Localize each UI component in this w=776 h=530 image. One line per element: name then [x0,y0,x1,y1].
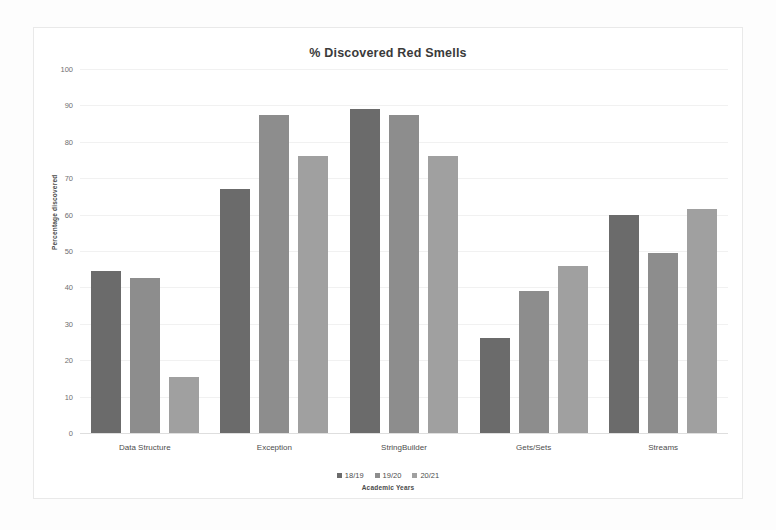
bar-group: Gets/Sets [469,69,599,433]
plot-area: 0102030405060708090100 Data StructureExc… [80,69,728,433]
bar[interactable] [389,115,419,434]
bar[interactable] [609,215,639,433]
y-axis-tick-label: 80 [65,137,73,146]
y-axis-tick-label: 50 [65,247,73,256]
x-axis-title: Academic Years [34,484,742,491]
y-axis-tick-label: 100 [60,65,73,74]
y-axis-title: Percentage discovered [51,175,58,250]
bar[interactable] [519,291,549,433]
chart-container: % Discovered Red Smells Percentage disco… [33,27,743,499]
legend-swatch-icon [375,473,380,478]
bar[interactable] [298,156,328,433]
legend-item[interactable]: 19/20 [375,471,402,480]
bar[interactable] [687,209,717,433]
bar[interactable] [558,266,588,433]
bar-group: StringBuilder [339,69,469,433]
bar-group: Data Structure [80,69,210,433]
y-axis-tick-label: 60 [65,210,73,219]
y-axis-tick-label: 0 [69,429,73,438]
bar-group: Streams [598,69,728,433]
y-axis-tick-label: 70 [65,174,73,183]
y-axis-tick-label: 30 [65,319,73,328]
x-axis-category-label: Exception [210,443,340,452]
bar[interactable] [220,189,250,433]
chart-title: % Discovered Red Smells [34,46,742,60]
legend-swatch-icon [337,473,342,478]
bar[interactable] [350,109,380,433]
x-axis-category-label: Streams [598,443,728,452]
x-axis-category-label: Gets/Sets [469,443,599,452]
legend-swatch-icon [412,473,417,478]
bar[interactable] [428,156,458,433]
y-axis-tick-label: 40 [65,283,73,292]
chart-legend: 18/1919/2020/21 [34,471,742,480]
y-axis-tick-label: 10 [65,392,73,401]
legend-item[interactable]: 20/21 [412,471,439,480]
legend-label: 18/19 [345,471,364,480]
legend-label: 20/21 [420,471,439,480]
x-axis-category-label: StringBuilder [339,443,469,452]
bar[interactable] [91,271,121,433]
gridline [80,433,728,434]
bar-group: Exception [210,69,340,433]
bar[interactable] [130,278,160,433]
x-axis-category-label: Data Structure [80,443,210,452]
y-axis-tick-label: 20 [65,356,73,365]
bar-groups: Data StructureExceptionStringBuilderGets… [80,69,728,433]
bar[interactable] [259,115,289,434]
bar[interactable] [648,253,678,433]
legend-label: 19/20 [383,471,402,480]
legend-item[interactable]: 18/19 [337,471,364,480]
y-axis-tick-label: 90 [65,101,73,110]
bar[interactable] [480,338,510,433]
bar[interactable] [169,377,199,433]
